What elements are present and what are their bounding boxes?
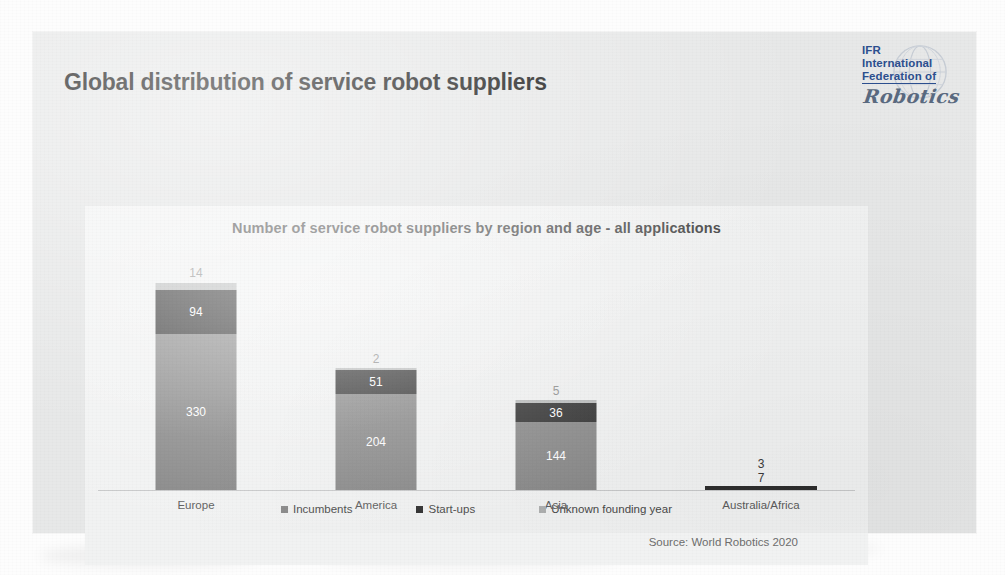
bar-value-label: 36 [549,407,562,419]
legend-swatch-icon [539,506,546,513]
bar-value-label: 5 [553,385,560,397]
ifr-logo: IFR International Federation of Robotics [862,41,970,123]
bar-segment-combined[interactable] [705,486,817,490]
bar-group-america: 2 51 204 America [296,261,456,490]
bar-value-label: 51 [369,376,382,388]
legend-item-startups[interactable]: Start-ups [416,503,475,515]
logo-line-international: International [862,57,932,69]
bar-group-europe: 14 94 330 Europe [116,261,276,490]
bar-group-asia: 5 36 144 Asia [476,261,636,490]
bar-segment-unknown[interactable]: 14 [156,283,237,290]
legend-swatch-icon [416,506,423,513]
plot-area: 14 94 330 Europe 2 [98,261,855,491]
bar-value-label: 3 [705,458,817,472]
legend-item-incumbents[interactable]: Incumbents [281,503,352,515]
bar-segment-startups[interactable]: 36 [516,403,597,422]
bar-segment-incumbents[interactable]: 204 [336,394,417,490]
bar-value-label: 204 [366,436,386,448]
legend-item-unknown-founding-year[interactable]: Unknown founding year [539,503,672,515]
bar-value-label: 14 [189,267,202,279]
logo-line-federation: Federation of [862,70,936,84]
bar-stack: 5 36 144 [516,400,597,490]
bar-stack: 14 94 330 [156,283,237,490]
bar-value-label: 2 [373,353,380,365]
logo-line-ifr: IFR [862,44,881,56]
photo-canvas: Global distribution of service robot sup… [0,0,1005,575]
bar-value-label: 144 [546,450,566,462]
bar-stack: 3 7 [705,458,817,490]
x-axis-line [98,490,855,491]
bar-value-label: 330 [186,406,206,418]
bar-stack: 2 51 204 [336,368,417,490]
bar-group-australia-africa: 3 7 Australia/Africa [666,261,856,490]
bar-segment-incumbents[interactable]: 144 [516,422,597,490]
logo-script-robotics: Robotics [862,85,961,107]
bar-segment-startups[interactable]: 94 [156,290,237,334]
legend-label: Incumbents [293,503,352,515]
legend-label: Unknown founding year [551,503,672,515]
source-note: Source: World Robotics 2020 [649,536,798,548]
legend-label: Start-ups [428,503,475,515]
legend-swatch-icon [281,506,288,513]
bar-value-label: 7 [705,472,817,486]
chart-title: Number of service robot suppliers by reg… [85,220,868,236]
chart-legend: Incumbents Start-ups Unknown founding ye… [98,503,855,515]
bar-segment-startups[interactable]: 51 [336,370,417,394]
presentation-slide: Global distribution of service robot sup… [33,32,976,533]
bar-segment-incumbents[interactable]: 330 [156,334,237,490]
page-title: Global distribution of service robot sup… [64,69,547,96]
bar-value-label: 94 [189,306,202,318]
chart-panel: Number of service robot suppliers by reg… [85,206,868,565]
